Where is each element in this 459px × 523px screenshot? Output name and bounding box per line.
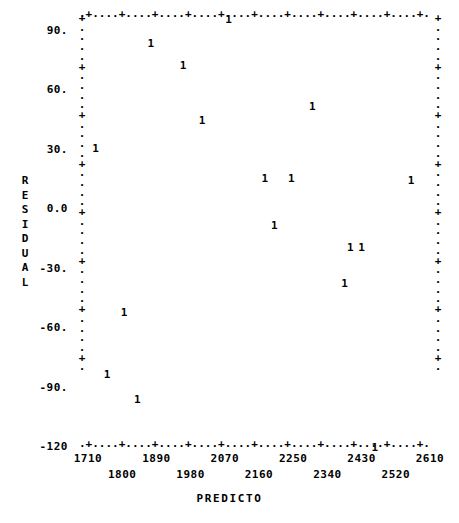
data-point: 1 [270,220,278,231]
y-axis-title-char: I [18,218,32,233]
data-point: 1 [371,442,379,453]
x-tick-label: 2610 [408,452,452,465]
y-axis-title-char: A [18,261,32,276]
plot-right-axis: +....+....+....+....+....+....+....+. [433,13,443,372]
data-point: 1 [308,101,316,112]
data-point: 1 [287,173,295,184]
y-axis-title-char: L [18,276,32,291]
data-point: 1 [147,38,155,49]
x-tick-label: 1800 [100,468,144,481]
x-tick-label: 1980 [169,468,213,481]
plot-top-axis: .+....+....+....+....+....+....+....+...… [79,10,430,18]
data-point: 1 [103,369,111,380]
y-tick-label: -60. [26,321,68,334]
y-tick-label: -30. [26,262,68,275]
data-point: 1 [133,394,141,405]
x-tick-label: 1710 [66,452,110,465]
data-point: 1 [407,175,415,186]
y-tick-label: 60. [26,83,68,96]
y-axis-title: RESIDUAL [18,174,32,290]
y-tick-label: 90. [26,24,68,37]
y-tick-label: -120 [26,440,68,453]
y-axis-title-char: R [18,174,32,189]
data-point: 1 [341,278,349,289]
x-tick-label: 2160 [237,468,281,481]
y-axis-title-char: S [18,203,32,218]
x-tick-label: 2340 [305,468,349,481]
data-point: 1 [225,14,233,25]
y-tick-label: 0.0 [26,202,68,215]
y-tick-label: -90. [26,381,68,394]
data-point: 1 [261,173,269,184]
x-tick-label: 2520 [374,468,418,481]
y-tick-label: 30. [26,143,68,156]
x-tick-label: 1890 [134,452,178,465]
plot-left-axis: +....+....+....+....+....+....+....+. [77,13,87,372]
data-point: 1 [92,143,100,154]
y-axis-title-char: E [18,189,32,204]
x-tick-label: 2070 [203,452,247,465]
data-point: 1 [358,242,366,253]
y-axis-title-char: U [18,247,32,262]
data-point: 1 [179,60,187,71]
y-axis-title-char: D [18,232,32,247]
data-point: 1 [198,115,206,126]
data-point: 1 [346,242,354,253]
x-axis-title: PREDICTO [0,492,459,505]
x-tick-label: 2250 [271,452,315,465]
scatter-plot: .+....+....+....+....+....+....+....+...… [0,0,459,523]
data-point: 1 [120,307,128,318]
